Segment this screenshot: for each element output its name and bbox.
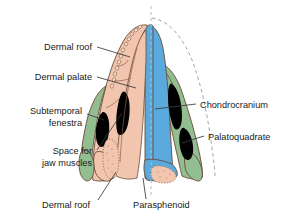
- label-palatoquadrate: Palatoquadrate: [208, 132, 270, 142]
- skull-artwork: [79, 6, 215, 196]
- skull-diagram: Dermal roof Dermal palate Subtemporal fe…: [0, 0, 286, 220]
- label-space-jaw-muscles-line2: jaw muscles: [41, 158, 92, 168]
- label-dermal-palate: Dermal palate: [35, 72, 92, 82]
- label-dermal-roof-top: Dermal roof: [44, 42, 92, 52]
- label-space-jaw-muscles-line1: Space for: [53, 146, 92, 156]
- label-dermal-roof-bottom: Dermal roof: [42, 200, 90, 210]
- leader-parasphenoid: [143, 178, 146, 199]
- label-subtemporal-fenestra-line2: fenestra: [49, 118, 83, 128]
- label-subtemporal-fenestra-line1: Subtemporal: [30, 106, 82, 116]
- label-parasphenoid: Parasphenoid: [133, 200, 190, 210]
- figure-container: Dermal roof Dermal palate Subtemporal fe…: [0, 0, 286, 220]
- label-chondrocranium: Chondrocranium: [200, 100, 268, 110]
